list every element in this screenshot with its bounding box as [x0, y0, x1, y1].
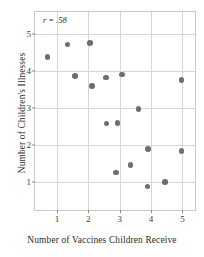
- x-axis-tick-mark: [57, 210, 58, 213]
- gridline-vertical: [57, 12, 58, 210]
- data-point: [162, 179, 168, 185]
- gridline-vertical: [182, 12, 183, 210]
- scatter-plot-figure: Number of Children's Illnesses r = .58 1…: [0, 0, 204, 257]
- data-point: [103, 75, 109, 81]
- data-point: [72, 73, 78, 79]
- data-point: [119, 72, 125, 78]
- gridline-horizontal: [35, 71, 195, 72]
- gridline-horizontal: [35, 182, 195, 183]
- data-point: [145, 146, 151, 152]
- x-axis-tick-mark: [182, 210, 183, 213]
- data-point: [65, 42, 71, 48]
- x-axis-tick-label: 3: [117, 214, 122, 224]
- x-axis-tick-label: 2: [86, 214, 91, 224]
- data-point: [113, 170, 119, 176]
- data-point: [179, 77, 185, 83]
- y-axis-tick-label: 5: [27, 29, 32, 39]
- gridline-vertical: [120, 12, 121, 210]
- y-axis-tick-mark: [32, 145, 35, 146]
- gridline-horizontal: [35, 108, 195, 109]
- y-axis-tick-mark: [32, 182, 35, 183]
- y-axis-tick-mark: [32, 34, 35, 35]
- gridline-horizontal: [35, 34, 195, 35]
- data-point: [115, 120, 121, 126]
- x-axis-tick-label: 5: [180, 214, 185, 224]
- x-axis-tick-mark: [88, 210, 89, 213]
- plot-area: r = .58 1234512345: [34, 11, 196, 211]
- data-point: [128, 162, 134, 168]
- data-point: [89, 83, 95, 89]
- data-point: [179, 148, 185, 154]
- x-axis-tick-mark: [151, 210, 152, 213]
- x-axis-tick-mark: [120, 210, 121, 213]
- y-axis-tick-label: 4: [27, 66, 32, 76]
- gridline-vertical: [151, 12, 152, 210]
- x-axis-title: Number of Vaccines Children Receive: [0, 235, 204, 245]
- correlation-annotation: r = .58: [43, 16, 67, 25]
- data-point: [45, 54, 51, 60]
- x-axis-tick-label: 1: [55, 214, 60, 224]
- y-axis-tick-label: 3: [27, 103, 32, 113]
- y-axis-title: Number of Children's Illnesses: [17, 28, 27, 198]
- data-point: [136, 106, 142, 112]
- gridline-horizontal: [35, 145, 195, 146]
- data-point: [145, 184, 151, 190]
- x-axis-tick-label: 4: [149, 214, 154, 224]
- y-axis-tick-label: 2: [27, 140, 32, 150]
- data-point: [87, 40, 93, 46]
- y-axis-tick-label: 1: [27, 177, 32, 187]
- y-axis-tick-mark: [32, 71, 35, 72]
- y-axis-tick-mark: [32, 108, 35, 109]
- data-point: [104, 121, 110, 127]
